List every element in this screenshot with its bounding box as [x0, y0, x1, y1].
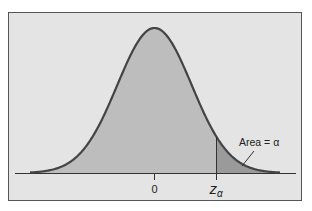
critical-value-subscript: α — [217, 188, 223, 199]
zero-tick-label: 0 — [151, 183, 157, 195]
normal-distribution-figure: 0 zα Area = α — [0, 0, 312, 211]
area-annotation: Area = α — [239, 136, 279, 148]
